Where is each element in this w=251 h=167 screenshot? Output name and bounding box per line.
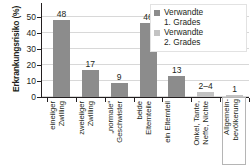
y-tick-label: 10 <box>18 77 36 86</box>
x-category-label: Allgemein- bevölkerung <box>222 97 246 165</box>
legend-swatch-icon-series-1 <box>154 10 160 16</box>
bar-value-label: 48 <box>43 9 80 19</box>
y-tick-label: 50 <box>18 13 36 22</box>
y-tick-label: 20 <box>18 61 36 70</box>
bar-value-label: 13 <box>158 65 195 75</box>
legend: Verwandte 1. Grades Verwandte 2. Grades <box>150 4 247 52</box>
bar-value-label: 17 <box>72 59 109 69</box>
erkrankungsrisiko-bar-chart: Erkrankungsrisiko (%) 01020304050 481794… <box>0 0 251 167</box>
bar <box>197 92 214 97</box>
legend-item-2: Verwandte 2. Grades <box>154 28 244 47</box>
x-category-label: ein Elternteil <box>164 101 186 165</box>
legend-label-series-2: Verwandte 2. Grades <box>164 28 203 47</box>
legend-label-series-1: Verwandte 1. Grades <box>164 8 203 27</box>
y-tick-label: 30 <box>18 45 36 54</box>
x-tick-mark <box>220 98 221 102</box>
bar <box>82 70 99 97</box>
x-category-label: zweieiiger Zwilling <box>78 101 100 165</box>
legend-item-1: Verwandte 1. Grades <box>154 8 244 27</box>
x-category-label: „normale“ Geschwister <box>107 101 129 165</box>
y-tick-label: 0 <box>18 93 36 102</box>
bar <box>53 20 70 97</box>
y-tick-label: 40 <box>18 29 36 38</box>
bar <box>111 83 128 97</box>
bar-value-label: 1 <box>216 84 251 94</box>
x-category-label: Onkel, Tante, Neffe, Nichte <box>193 101 215 165</box>
legend-swatch-icon-series-2 <box>154 30 160 36</box>
x-tick-mark <box>249 98 250 102</box>
x-category-label: eineiiger Zwilling <box>49 101 71 165</box>
bar-value-label: 9 <box>101 72 138 82</box>
x-category-label: beide Elternteile <box>136 101 158 165</box>
bar <box>168 76 185 97</box>
